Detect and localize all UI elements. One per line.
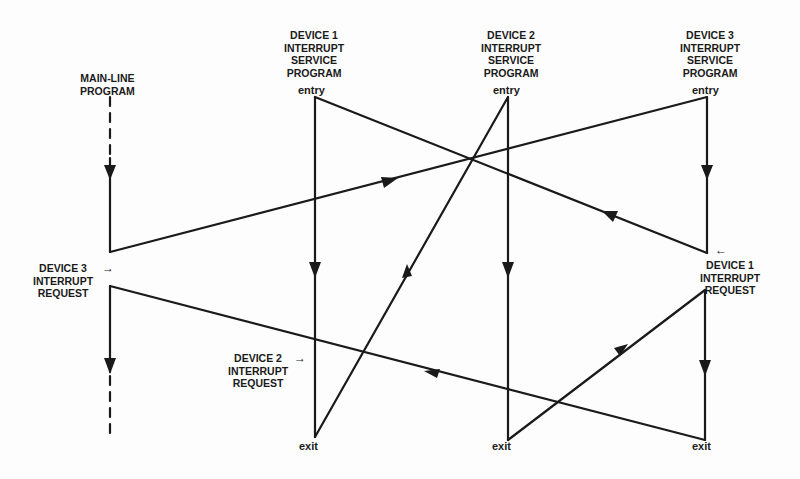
device2-arrow [502, 262, 514, 278]
device2-request-label: DEVICE 2 INTERRUPT REQUEST [228, 352, 288, 390]
jump-device1-to-device2 [315, 97, 508, 437]
mainline-arrow-1 [104, 165, 116, 180]
return-device2-to-device3 [508, 290, 705, 440]
device2-entry-label: entry [493, 84, 520, 97]
device3-request-label: DEVICE 3 INTERRUPT REQUEST [33, 262, 93, 300]
device2-exit-label: exit [492, 440, 511, 453]
device1-request-arrow-icon: ← [715, 244, 727, 257]
arrow-main-to-device3 [381, 177, 398, 188]
device3-service-label: DEVICE 3 INTERRUPT SERVICE PROGRAM [680, 29, 740, 79]
device3-exit-label: exit [692, 440, 711, 453]
mainline-arrow-2 [104, 358, 116, 374]
device3-arrow-2 [699, 360, 711, 376]
device3-entry-label: entry [692, 84, 719, 97]
device1-arrow [309, 262, 321, 278]
device1-entry-label: entry [298, 84, 325, 97]
jump-device3-to-device1 [315, 97, 707, 253]
device1-request-label: DEVICE 1 INTERRUPT REQUEST [700, 259, 760, 297]
device1-exit-label: exit [299, 440, 318, 453]
device3-arrow-1 [701, 165, 713, 180]
arrow-device3-to-main [424, 369, 440, 378]
interrupt-diagram: MAIN-LINE PROGRAM DEVICE 1 INTERRUPT SER… [0, 0, 800, 479]
arrow-device1-to-device2 [402, 264, 412, 278]
device2-service-label: DEVICE 2 INTERRUPT SERVICE PROGRAM [481, 29, 541, 79]
mainline-label: MAIN-LINE PROGRAM [80, 72, 135, 97]
jump-main-to-device3 [110, 97, 707, 252]
device1-service-label: DEVICE 1 INTERRUPT SERVICE PROGRAM [284, 29, 344, 79]
return-device3-to-main [110, 286, 705, 440]
device2-request-arrow-icon: → [294, 352, 306, 365]
device3-request-arrow-icon: → [102, 262, 114, 275]
